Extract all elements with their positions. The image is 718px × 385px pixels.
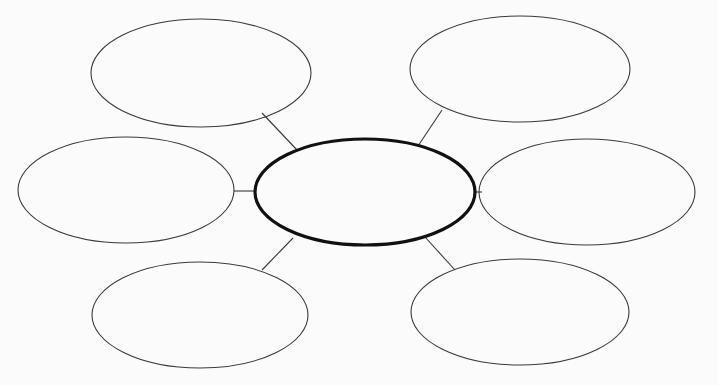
bubble-group-bottom-right [411,259,629,365]
connector-line-bottom-right [425,237,455,270]
connector-line-top-left [262,113,297,150]
connector-line-top-right [418,110,442,146]
mind-map-diagram [0,0,718,385]
bubble-top-right[interactable] [410,16,630,122]
diagram-svg [0,0,718,385]
bubble-bottom-right[interactable] [411,259,629,365]
connector-line-bottom-left [262,238,293,270]
bubble-top-left[interactable] [91,19,311,127]
bubble-group-middle-left [18,137,234,243]
bubble-middle-left[interactable] [18,137,234,243]
bubble-group-middle-right [479,139,695,245]
bubble-middle-right[interactable] [479,139,695,245]
center-bubble-group [255,139,475,245]
center-bubble[interactable] [255,139,475,245]
bubble-group-top-right [410,16,630,122]
bubble-group-top-left [91,19,311,127]
bubble-group-bottom-left [92,262,308,368]
bubble-bottom-left[interactable] [92,262,308,368]
